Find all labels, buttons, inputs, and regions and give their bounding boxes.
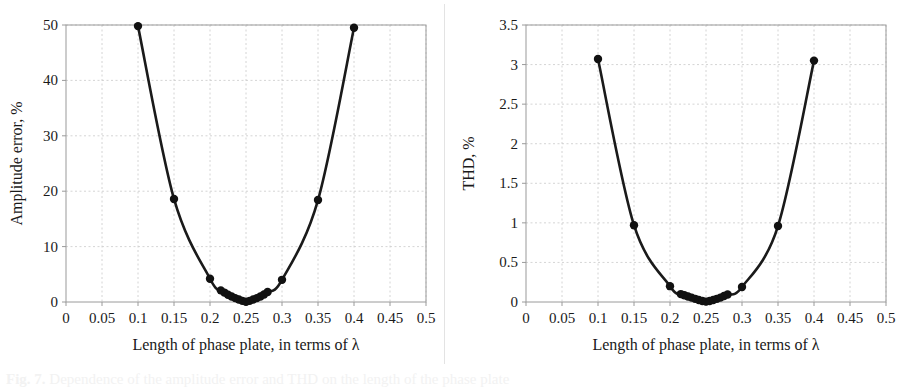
figure-caption-label: Fig. 7. — [6, 371, 46, 387]
x-tick-label: 0.5 — [877, 310, 896, 326]
x-axis-title: Length of phase plate, in terms of λ — [132, 336, 359, 354]
data-point-marker — [774, 222, 782, 230]
data-point-marker — [206, 275, 214, 283]
y-tick-label: 0.5 — [499, 254, 518, 270]
figure-two-panel-chart: 0102030405000.050.10.150.20.250.30.350.4… — [0, 0, 903, 389]
data-point-marker — [278, 276, 286, 284]
data-point-marker — [738, 283, 746, 291]
x-tick-label: 0.3 — [733, 310, 752, 326]
y-axis-title: THD, % — [460, 136, 477, 190]
chart-panel-thd: 00.511.522.533.500.050.10.150.20.250.30.… — [452, 0, 903, 368]
y-tick-label: 1 — [511, 215, 519, 231]
y-tick-label: 40 — [43, 72, 58, 88]
y-tick-label: 3.5 — [499, 17, 518, 33]
data-point-marker — [350, 24, 358, 32]
x-tick-label: 0.25 — [693, 310, 719, 326]
x-tick-label: 0.35 — [765, 310, 791, 326]
x-tick-label: 0.4 — [805, 310, 824, 326]
data-point-marker — [666, 282, 674, 290]
y-tick-label: 1.5 — [499, 175, 518, 191]
x-tick-label: 0.45 — [377, 310, 403, 326]
data-point-marker — [170, 195, 178, 203]
y-tick-label: 50 — [43, 17, 58, 33]
x-tick-label: 0.35 — [305, 310, 331, 326]
y-tick-label: 20 — [43, 183, 58, 199]
x-tick-label: 0.05 — [89, 310, 115, 326]
x-tick-label: 0.05 — [549, 310, 575, 326]
data-point-marker — [630, 221, 638, 229]
y-tick-label: 3 — [511, 57, 519, 73]
x-tick-label: 0.1 — [589, 310, 608, 326]
y-tick-label: 2 — [511, 136, 519, 152]
x-tick-label: 0.2 — [661, 310, 680, 326]
figure-caption-text: Dependence of the amplitude error and TH… — [46, 371, 510, 387]
x-tick-label: 0.5 — [417, 310, 436, 326]
x-tick-label: 0.4 — [345, 310, 364, 326]
amplitude-error-chart: 0102030405000.050.10.150.20.250.30.350.4… — [0, 0, 451, 368]
x-tick-label: 0.15 — [621, 310, 647, 326]
x-tick-label: 0.3 — [273, 310, 292, 326]
data-point-marker — [810, 56, 818, 64]
figure-caption: Fig. 7. Dependence of the amplitude erro… — [6, 371, 509, 388]
panel-divider — [444, 4, 445, 364]
data-point-marker — [314, 196, 322, 204]
data-point-marker — [134, 22, 142, 30]
data-point-marker — [263, 288, 271, 296]
x-tick-label: 0 — [522, 310, 530, 326]
y-tick-label: 2.5 — [499, 96, 518, 112]
data-point-marker — [723, 290, 731, 298]
x-tick-label: 0.1 — [129, 310, 148, 326]
y-tick-label: 30 — [43, 128, 58, 144]
figure-caption-strip: Fig. 7. Dependence of the amplitude erro… — [0, 369, 903, 389]
x-axis-title: Length of phase plate, in terms of λ — [592, 336, 819, 354]
thd-chart: 00.511.522.533.500.050.10.150.20.250.30.… — [452, 0, 903, 368]
y-axis-title: Amplitude error, % — [8, 101, 26, 225]
x-tick-label: 0.25 — [233, 310, 259, 326]
x-tick-label: 0.2 — [201, 310, 220, 326]
y-tick-label: 0 — [511, 294, 519, 310]
x-tick-label: 0 — [62, 310, 70, 326]
x-tick-label: 0.45 — [837, 310, 863, 326]
y-tick-label: 10 — [43, 239, 58, 255]
y-tick-label: 0 — [51, 294, 59, 310]
data-point-marker — [594, 55, 602, 63]
x-tick-label: 0.15 — [161, 310, 187, 326]
chart-panel-amplitude-error: 0102030405000.050.10.150.20.250.30.350.4… — [0, 0, 451, 368]
